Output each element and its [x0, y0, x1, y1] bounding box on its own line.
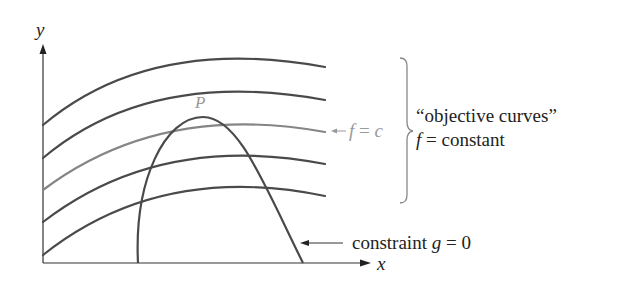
objective-curves-label: “objective curves”: [416, 105, 557, 126]
x-axis-arrow-icon: [360, 260, 371, 267]
objective-curves: [43, 59, 325, 255]
constraint-curve: [138, 117, 303, 263]
level-curve-text: f = c: [349, 120, 384, 141]
level-arrow-icon: [331, 129, 337, 134]
brace-icon: [400, 58, 413, 203]
axes: y x: [34, 19, 386, 274]
x-axis-label: x: [376, 253, 386, 274]
objective-curve-1: [43, 59, 325, 125]
objective-curve-2: [43, 92, 325, 158]
constraint-arrow-icon: [300, 240, 309, 246]
f-constant-label: f = constant: [416, 129, 506, 150]
level-curve-label: f = c: [331, 120, 384, 141]
diagram-canvas: y x P f = c “objective curves” f: [0, 0, 621, 282]
constraint-text: constraint g = 0: [352, 232, 471, 253]
y-axis-arrow-icon: [40, 44, 47, 54]
y-axis-label: y: [34, 19, 45, 40]
point-p-label: P: [194, 93, 205, 112]
constraint-label: constraint g = 0: [300, 232, 471, 253]
